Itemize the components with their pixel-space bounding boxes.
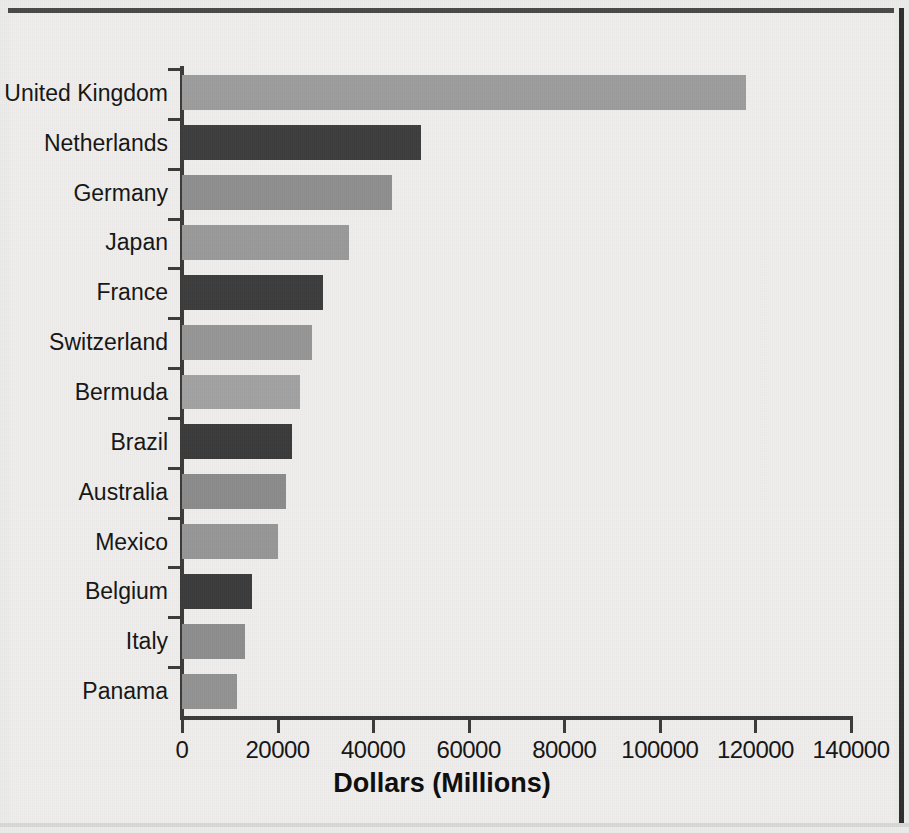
y-tick xyxy=(168,118,181,121)
bar-belgium xyxy=(182,574,252,609)
y-tick xyxy=(168,566,181,569)
y-tick xyxy=(168,68,181,71)
bar-japan xyxy=(182,225,349,260)
y-label-germany: Germany xyxy=(0,179,172,206)
x-tick xyxy=(372,720,375,733)
x-tick-label: 100000 xyxy=(621,736,698,764)
y-tick xyxy=(168,616,181,619)
x-tick-label: 20000 xyxy=(245,736,309,764)
page-frame-top-rule xyxy=(8,8,894,13)
x-tick xyxy=(277,720,280,733)
y-label-united-kingdom: United Kingdom xyxy=(0,79,172,106)
bar-united-kingdom xyxy=(182,75,746,110)
x-tick xyxy=(850,720,853,733)
x-tick xyxy=(468,720,471,733)
y-label-switzerland: Switzerland xyxy=(0,329,172,356)
page-frame-bottom-rule xyxy=(0,823,909,827)
y-label-australia: Australia xyxy=(0,478,172,505)
bar-australia xyxy=(182,474,286,509)
bar-france xyxy=(182,275,323,310)
x-tick xyxy=(563,720,566,733)
x-tick xyxy=(181,720,184,733)
bar-netherlands xyxy=(182,125,421,160)
x-tick-label: 140000 xyxy=(812,736,889,764)
y-label-brazil: Brazil xyxy=(0,428,172,455)
y-tick xyxy=(168,267,181,270)
y-tick xyxy=(168,168,181,171)
x-tick-label: 120000 xyxy=(717,736,794,764)
bar-brazil xyxy=(182,424,292,459)
y-tick xyxy=(168,367,181,370)
bar-mexico xyxy=(182,524,278,559)
bar-germany xyxy=(182,175,392,210)
x-axis-title: Dollars (Millions) xyxy=(0,768,884,799)
y-label-panama: Panama xyxy=(0,678,172,705)
page-frame-right-rule xyxy=(899,8,904,826)
y-label-belgium: Belgium xyxy=(0,578,172,605)
bar-switzerland xyxy=(182,325,312,360)
y-label-bermuda: Bermuda xyxy=(0,379,172,406)
bar-panama xyxy=(182,674,237,709)
y-tick xyxy=(168,666,181,669)
x-tick-label: 0 xyxy=(176,736,189,764)
y-tick xyxy=(168,317,181,320)
y-label-mexico: Mexico xyxy=(0,528,172,555)
y-tick xyxy=(168,517,181,520)
y-label-italy: Italy xyxy=(0,628,172,655)
x-tick xyxy=(754,720,757,733)
chart-page: United KingdomNetherlandsGermanyJapanFra… xyxy=(0,0,909,833)
y-label-france: France xyxy=(0,279,172,306)
y-tick xyxy=(168,417,181,420)
bar-bermuda xyxy=(182,375,300,410)
y-label-netherlands: Netherlands xyxy=(0,129,172,156)
x-tick-label: 80000 xyxy=(532,736,596,764)
x-axis-line xyxy=(180,716,853,720)
x-tick-label: 60000 xyxy=(437,736,501,764)
bar-italy xyxy=(182,624,245,659)
x-tick xyxy=(659,720,662,733)
x-tick-label: 40000 xyxy=(341,736,405,764)
y-tick xyxy=(168,218,181,221)
y-label-japan: Japan xyxy=(0,229,172,256)
y-tick xyxy=(168,467,181,470)
